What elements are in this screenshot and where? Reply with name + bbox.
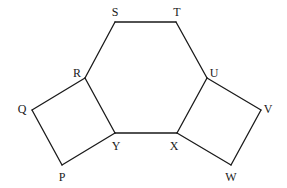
edge-tu (176, 22, 207, 78)
edge-rq (32, 78, 85, 110)
edge-py (62, 133, 115, 165)
vertex-label-s: S (112, 5, 119, 19)
vertex-label-v: V (264, 102, 273, 116)
edge-uv (207, 78, 261, 110)
edge-yr (85, 78, 115, 133)
edges-group (32, 22, 261, 165)
edge-wx (177, 133, 231, 165)
geometry-diagram: STRUYXQPVW (0, 0, 287, 188)
edge-rs (85, 22, 115, 78)
edge-qp (32, 110, 62, 165)
vertex-label-x: X (170, 139, 179, 153)
edge-ux (177, 78, 207, 133)
vertex-label-u: U (210, 66, 219, 80)
vertex-label-w: W (225, 170, 237, 184)
edge-vw (231, 110, 261, 165)
vertex-label-p: P (59, 170, 66, 184)
vertex-label-r: R (73, 66, 81, 80)
vertex-label-t: T (173, 5, 181, 19)
vertex-label-q: Q (18, 102, 27, 116)
vertex-label-y: Y (112, 139, 121, 153)
hexagon-with-squares-figure: STRUYXQPVW (0, 0, 287, 188)
